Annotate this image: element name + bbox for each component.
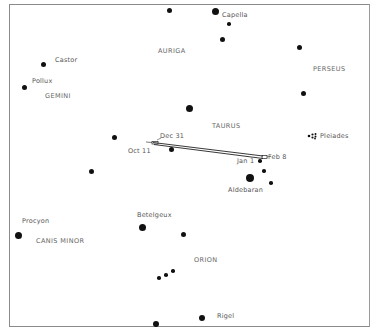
star-label-pollux: Pollux bbox=[32, 77, 52, 85]
star bbox=[269, 181, 273, 185]
date-label-feb-8: Feb 8 bbox=[268, 153, 287, 161]
date-label-jan-1: Jan 1 bbox=[237, 157, 254, 165]
star bbox=[301, 91, 306, 96]
star bbox=[169, 147, 174, 152]
date-label-dec-31: Dec 31 bbox=[160, 132, 184, 140]
star bbox=[220, 37, 225, 42]
date-label-oct-11: Oct 11 bbox=[128, 147, 151, 155]
star bbox=[262, 169, 266, 173]
star-castor bbox=[41, 62, 46, 67]
star bbox=[167, 8, 172, 13]
star bbox=[112, 135, 117, 140]
star bbox=[297, 45, 302, 50]
star-label-castor: Castor bbox=[55, 56, 77, 64]
star-capella bbox=[212, 8, 219, 15]
star bbox=[89, 169, 94, 174]
star bbox=[227, 22, 231, 26]
star-chart: CapellaCastorPolluxAldebaranBetelgeuxPro… bbox=[0, 0, 376, 334]
planet-path bbox=[146, 138, 271, 159]
star bbox=[181, 232, 186, 237]
constellation-label-perseus: PERSEUS bbox=[313, 65, 345, 73]
constellation-label-gemini: GEMINI bbox=[45, 92, 71, 100]
star-procyon bbox=[15, 232, 22, 239]
star-label-aldebaran: Aldebaran bbox=[228, 186, 263, 194]
star bbox=[186, 105, 193, 112]
constellation-label-auriga: AURIGA bbox=[158, 47, 186, 55]
constellation-label-orion: ORION bbox=[194, 256, 218, 264]
star bbox=[164, 273, 168, 277]
star-rigel bbox=[199, 315, 205, 321]
star-aldebaran bbox=[246, 174, 254, 182]
planet-path-svg bbox=[0, 0, 376, 334]
pleiades-label: Pleiades bbox=[320, 132, 349, 140]
star-label-capella: Capella bbox=[222, 11, 248, 19]
star bbox=[153, 321, 159, 327]
star bbox=[171, 269, 175, 273]
constellation-label-taurus: TAURUS bbox=[212, 122, 240, 130]
star-pollux bbox=[22, 85, 27, 90]
star bbox=[258, 159, 262, 163]
constellation-label-canis-minor: CANIS MINOR bbox=[36, 237, 84, 245]
star-label-procyon: Procyon bbox=[22, 217, 49, 225]
pleiades-cluster-icon bbox=[308, 133, 317, 139]
star-label-rigel: Rigel bbox=[217, 312, 234, 320]
star-betelgeux bbox=[139, 224, 146, 231]
star bbox=[157, 276, 161, 280]
star-label-betelgeux: Betelgeux bbox=[137, 211, 172, 219]
